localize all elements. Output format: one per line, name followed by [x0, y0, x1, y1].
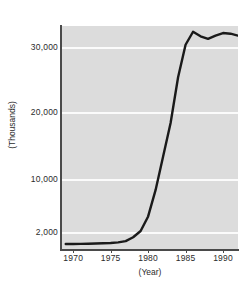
- gridline: [62, 232, 238, 234]
- x-axis-tick-mark: [148, 249, 149, 253]
- x-axis-tick-mark: [111, 249, 112, 253]
- gridline: [62, 179, 238, 181]
- series-polyline: [66, 32, 238, 244]
- x-axis-tick-labels: 19701975198019851990: [0, 253, 250, 267]
- plot-area: [62, 26, 238, 250]
- y-axis-tick-label: 10,000: [2, 174, 58, 184]
- x-axis-tick-label: 1990: [203, 253, 243, 263]
- x-axis-tick-label: 1975: [91, 253, 131, 263]
- x-axis-title: (Year): [62, 267, 238, 277]
- gridline: [62, 47, 238, 49]
- x-axis-tick-label: 1970: [53, 253, 93, 263]
- gridline: [62, 112, 238, 114]
- x-axis-tick-mark: [73, 249, 74, 253]
- y-axis-line: [60, 25, 62, 251]
- x-axis-tick-mark: [186, 249, 187, 253]
- data-series-line: [62, 26, 238, 250]
- x-axis-tick-label: 1980: [128, 253, 168, 263]
- y-axis-title: (Thousands): [7, 85, 17, 165]
- y-axis-tick-label: 30,000: [2, 42, 58, 52]
- x-axis-tick-mark: [223, 249, 224, 253]
- x-axis-line: [60, 249, 239, 251]
- chart-figure: 2,00010,00020,00030,000 1970197519801985…: [0, 0, 250, 286]
- x-axis-tick-label: 1985: [166, 253, 206, 263]
- y-axis-tick-label: 2,000: [2, 227, 58, 237]
